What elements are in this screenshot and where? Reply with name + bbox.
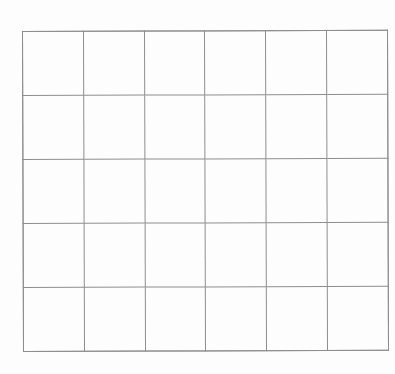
grid-cell-content — [267, 223, 327, 286]
grid-cell-content — [328, 287, 388, 350]
grid-cell[interactable] — [266, 159, 327, 223]
grid-cell[interactable] — [205, 159, 266, 223]
grid-row — [23, 158, 388, 223]
grid-cell-content — [23, 96, 83, 159]
grid-row — [23, 94, 388, 159]
grid-cell[interactable] — [266, 223, 327, 287]
page-canvas — [0, 0, 395, 374]
grid-cell-content — [327, 31, 387, 94]
grid-cell[interactable] — [327, 222, 388, 286]
grid-cell[interactable] — [145, 223, 206, 287]
grid-cell-content — [206, 287, 266, 350]
grid-cell-content — [267, 287, 327, 350]
grid-row — [23, 222, 388, 287]
grid-cell-content — [145, 287, 205, 350]
grid-cell-content — [145, 95, 205, 158]
grid-cell-content — [23, 160, 83, 223]
grid-cell-content — [206, 223, 266, 286]
grid-cell[interactable] — [84, 223, 145, 287]
grid-cell-content — [328, 223, 388, 286]
grid-cell[interactable] — [144, 95, 205, 159]
grid-cell[interactable] — [206, 223, 267, 287]
grid-cell-content — [145, 159, 205, 222]
grid-cell[interactable] — [205, 95, 266, 159]
grid-row — [23, 286, 388, 351]
grid-cell[interactable] — [327, 30, 388, 94]
grid-cell[interactable] — [145, 159, 206, 223]
grid-cell-content — [85, 288, 145, 351]
grid-cell[interactable] — [267, 287, 328, 351]
grid-cell-content — [145, 223, 205, 286]
grid-cell-content — [206, 159, 266, 222]
grid-cell[interactable] — [205, 31, 266, 95]
grid-cell-content — [267, 95, 327, 158]
grid-cell-content — [84, 160, 144, 223]
grid-cell[interactable] — [23, 159, 84, 223]
grid-cell-content — [23, 32, 83, 95]
grid-cell-content — [145, 31, 205, 94]
grid-cell[interactable] — [23, 31, 84, 95]
grid-cell-content — [84, 96, 144, 159]
grid-cell[interactable] — [266, 95, 327, 159]
grid-cell-content — [327, 95, 387, 158]
grid-cell-content — [24, 224, 84, 287]
grid-container — [22, 30, 389, 352]
grid-row — [23, 30, 388, 95]
grid-cell[interactable] — [23, 95, 84, 159]
grid-cell[interactable] — [145, 287, 206, 351]
grid-cell[interactable] — [23, 223, 84, 287]
grid-cell[interactable] — [84, 95, 145, 159]
blank-grid — [22, 30, 389, 352]
grid-cell-content — [84, 224, 144, 287]
grid-cell[interactable] — [84, 287, 145, 351]
grid-cell-content — [205, 31, 265, 94]
grid-cell[interactable] — [84, 159, 145, 223]
grid-cell[interactable] — [266, 31, 327, 95]
grid-body — [23, 30, 389, 351]
grid-cell[interactable] — [327, 158, 388, 222]
grid-cell[interactable] — [144, 31, 205, 95]
grid-cell-content — [328, 159, 388, 222]
grid-cell[interactable] — [327, 286, 388, 350]
grid-cell[interactable] — [327, 94, 388, 158]
grid-cell-content — [266, 31, 326, 94]
grid-cell-content — [206, 95, 266, 158]
grid-cell-content — [24, 288, 84, 351]
grid-cell[interactable] — [206, 287, 267, 351]
grid-cell[interactable] — [83, 31, 144, 95]
grid-cell-content — [84, 32, 144, 95]
grid-cell[interactable] — [23, 287, 84, 351]
grid-cell-content — [267, 159, 327, 222]
